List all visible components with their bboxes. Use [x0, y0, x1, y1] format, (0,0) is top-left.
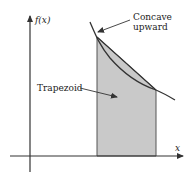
trapezoid-diagram: f(x) x Concave upward Trapezoid [0, 0, 191, 183]
trapezoid-label: Trapezoid [37, 83, 83, 93]
y-axis-label: f(x) [34, 15, 51, 25]
trapezoid-region [97, 37, 156, 156]
concave-label-line2: upward [133, 22, 168, 32]
concave-pointer-arrow [98, 20, 130, 32]
x-axis-label: x [175, 143, 180, 153]
concave-label-line1: Concave [133, 12, 172, 22]
